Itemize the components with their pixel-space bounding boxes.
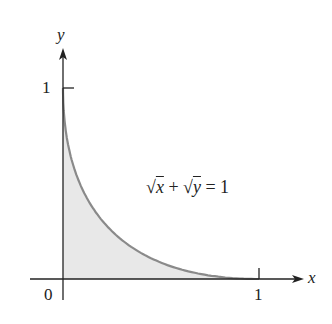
equation-var-y: y <box>193 177 201 197</box>
origin-label: 0 <box>44 285 53 305</box>
x-axis-label: x <box>308 268 316 288</box>
sqrt-symbol: √ <box>183 177 193 197</box>
plot-canvas <box>0 0 332 324</box>
x-tick-label-one: 1 <box>254 285 263 305</box>
y-axis-label: y <box>57 25 65 45</box>
equation-equals: = 1 <box>205 177 229 197</box>
sqrt-symbol: √ <box>146 177 156 197</box>
equation-var-x: x <box>156 177 164 197</box>
equation-label: √x + √y = 1 <box>146 177 229 198</box>
equation-plus: + <box>168 177 178 197</box>
y-tick-label-one: 1 <box>42 78 51 98</box>
